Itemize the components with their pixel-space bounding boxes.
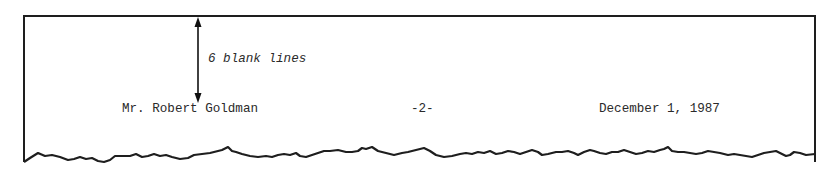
page-outline [0, 0, 839, 179]
page-border [24, 16, 815, 162]
letter-date: December 1, 1987 [599, 102, 720, 116]
torn-edge [24, 147, 815, 162]
blank-lines-annotation: 6 blank lines [208, 52, 306, 66]
recipient-name: Mr. Robert Goldman [122, 102, 258, 116]
vertical-arrow-icon [195, 17, 202, 103]
page-number: -2- [411, 102, 434, 116]
